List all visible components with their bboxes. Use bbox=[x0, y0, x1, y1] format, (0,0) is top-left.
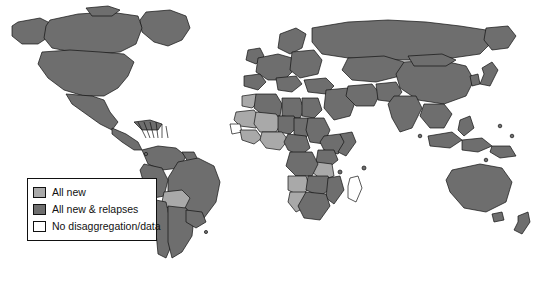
legend-item-all-new-relapses: All new & relapses bbox=[33, 201, 151, 218]
region-libya bbox=[282, 98, 304, 118]
world-map-graphic: .l { stroke:#111111; stroke-width:0.7; s… bbox=[0, 0, 535, 287]
legend-item-all-new: All new bbox=[33, 184, 151, 201]
region-tasmania bbox=[492, 212, 504, 222]
legend-swatch-all-new-relapses-icon bbox=[33, 204, 46, 215]
region-eastern-europe bbox=[290, 50, 322, 78]
legend-swatch-all-new-icon bbox=[33, 187, 46, 198]
legend-swatch-no-data-icon bbox=[33, 221, 46, 232]
legend-label-no-data: No disaggregation/data bbox=[52, 221, 161, 232]
legend-item-no-data: No disaggregation/data bbox=[33, 218, 151, 235]
region-island-dot-5 bbox=[510, 134, 514, 138]
region-island-dot-3 bbox=[418, 134, 422, 138]
region-island-dot-8 bbox=[144, 152, 147, 155]
legend-label-all-new-relapses: All new & relapses bbox=[52, 204, 138, 215]
map-legend: All new All new & relapses No disaggrega… bbox=[27, 178, 157, 241]
legend-label-all-new: All new bbox=[52, 187, 86, 198]
region-island-dot-1 bbox=[338, 170, 342, 174]
region-island-dot-6 bbox=[484, 158, 488, 162]
region-korea bbox=[470, 74, 480, 86]
region-island-dot-7 bbox=[204, 230, 207, 233]
world-map-figure: .l { stroke:#111111; stroke-width:0.7; s… bbox=[0, 0, 535, 287]
region-island-dot-2 bbox=[362, 166, 366, 170]
region-canada bbox=[44, 12, 142, 54]
region-island-dot-4 bbox=[498, 124, 502, 128]
